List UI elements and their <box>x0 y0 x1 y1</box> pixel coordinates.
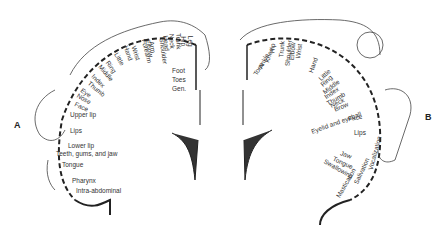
label-a-teeth: Teeth, gums, and jaw <box>56 151 117 158</box>
panel-a-letter: A <box>14 120 21 130</box>
label-a-pharynx: Pharynx <box>72 178 96 185</box>
label-a-foot: Foot <box>172 68 185 75</box>
label-a-hip: Hip <box>180 36 187 46</box>
label-a-tongue: Tongue <box>62 162 83 169</box>
label-a-gen: Gen. <box>172 86 186 93</box>
label-a-leg: Leg <box>186 36 193 47</box>
label-a-intra-abdominal: Intra-abdominal <box>76 188 121 195</box>
label-a-toes: Toes <box>172 77 186 84</box>
label-b-hip: Hip <box>269 43 276 53</box>
label-a-upper-lip: Upper lip <box>70 112 96 119</box>
label-b-lips: Lips <box>354 130 366 137</box>
label-a-lips: Lips <box>70 128 82 135</box>
panel-b-letter: B <box>425 112 432 122</box>
homunculus-diagram <box>0 0 445 243</box>
label-a-lower-lip: Lower lip <box>68 143 94 150</box>
label-a-arm: Arm <box>148 41 156 54</box>
